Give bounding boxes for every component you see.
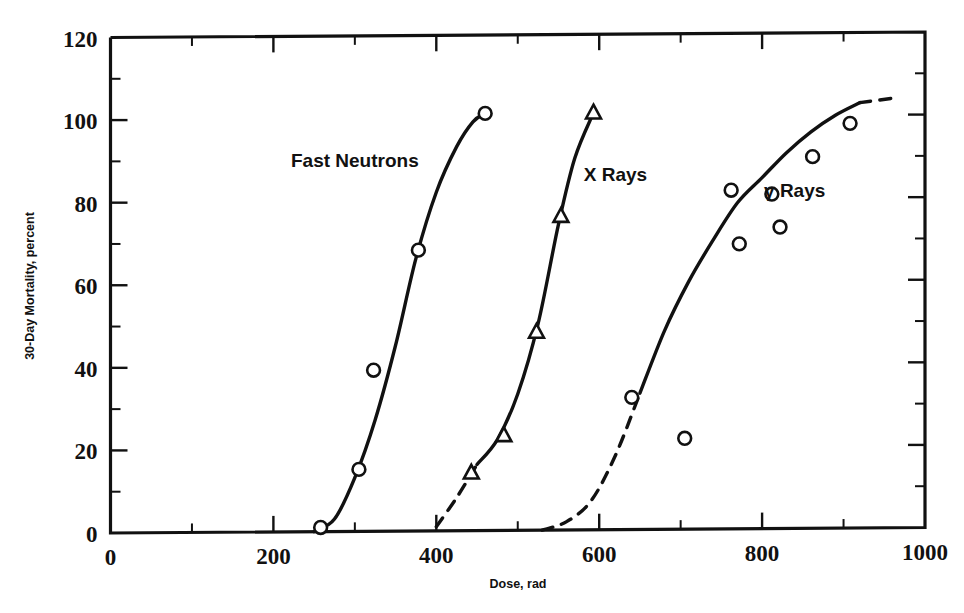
x-tick-label: 0 [105,545,117,570]
x-tick-label: 800 [745,541,780,566]
data-point-circle [774,221,787,234]
y-tick-label: 120 [63,27,98,52]
data-point-circle [625,391,638,404]
data-point-circle [367,364,380,377]
data-point-circle [806,150,819,163]
series-label-3: γ Rays [764,180,825,201]
data-point-circle [844,117,857,130]
y-tick-label: 20 [75,439,98,464]
data-point-circle [678,432,691,445]
data-point-circle [733,237,746,250]
x-axis-title: Dose, rad [490,577,547,591]
data-point-circle [314,521,327,534]
y-tick-label: 0 [86,522,98,547]
data-point-circle [353,463,366,476]
chart-page: 02004006008001000 020406080100120 Fast N… [0,0,964,613]
y-tick-label: 80 [75,192,98,217]
data-point-circle [479,107,492,120]
x-tick-label: 200 [256,544,291,569]
y-tick-label: 100 [63,109,98,134]
y-tick-label: 60 [75,274,98,299]
data-point-circle [412,244,425,257]
x-tick-label: 1000 [902,540,948,565]
series-label-1: Fast Neutrons [291,150,419,171]
y-axis-title: 30-Day Mortality, percent [23,211,37,360]
y-tick-label: 40 [75,357,98,382]
chart-background [0,0,964,613]
x-tick-label: 400 [419,543,454,568]
data-point-circle [725,184,738,197]
series-label-2: X Rays [584,164,647,185]
mortality-dose-chart: 02004006008001000 020406080100120 Fast N… [0,0,964,613]
x-tick-label: 600 [582,542,617,567]
